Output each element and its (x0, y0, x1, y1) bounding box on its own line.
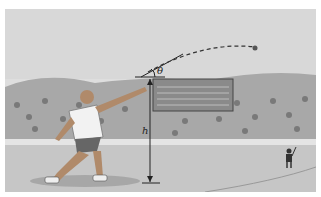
projectile-scene (5, 9, 316, 192)
height-label: h (142, 125, 148, 136)
illustration-frame: θ h (5, 9, 316, 192)
ball (253, 46, 258, 51)
angle-label: θ (157, 65, 163, 76)
scoreboard (153, 79, 233, 111)
